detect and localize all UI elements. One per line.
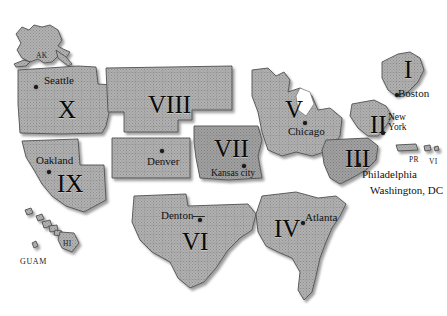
region-shape-i (382, 52, 424, 96)
federal-regions-map: IBostonIINew YorkIIIPhiladelphiaIVAtlant… (0, 0, 447, 316)
region-shape-iv (256, 192, 346, 300)
region-shape-pr-vi (396, 144, 439, 151)
region-shape-x (18, 66, 112, 134)
region-shape-vii (194, 126, 262, 180)
region-shape-ii (350, 100, 392, 136)
region-shape-iii (322, 138, 378, 184)
region-shape-alaska (14, 25, 72, 67)
region-shape-guam (32, 241, 38, 248)
map-geometry (0, 0, 447, 316)
region-shape-ix (22, 139, 106, 212)
region-shape-vi (132, 194, 256, 288)
